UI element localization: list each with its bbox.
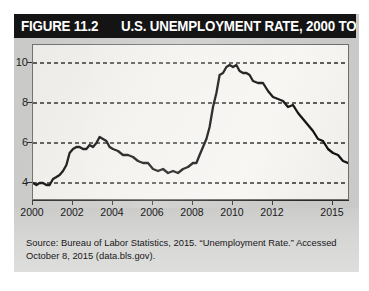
y-axis-tick-label: 4 — [2, 176, 28, 188]
figure-title-bar: FIGURE 11.2 U.S. UNEMPLOYMENT RATE, 2000… — [14, 14, 356, 38]
x-axis-tick — [232, 200, 233, 205]
unemployment-rate-line — [33, 65, 348, 185]
y-axis-tick — [27, 102, 32, 103]
chart-plot-panel — [32, 44, 349, 200]
x-axis-tick-label: 2015 — [320, 206, 343, 218]
x-axis-tick-label: 2002 — [60, 206, 83, 218]
x-axis-tick-label: 2000 — [20, 206, 43, 218]
x-axis-tick-label: 2010 — [220, 206, 243, 218]
x-axis-tick — [332, 200, 333, 205]
y-axis-tick-label: 6 — [2, 136, 28, 148]
x-axis-tick-label: 2006 — [140, 206, 163, 218]
x-axis-tick — [152, 200, 153, 205]
y-axis-tick — [27, 62, 32, 63]
x-axis-tick — [32, 200, 33, 205]
x-axis-tick — [272, 200, 273, 205]
y-axis-tick — [27, 182, 32, 183]
figure-source-note: Source: Bureau of Labor Statistics, 2015… — [26, 236, 342, 263]
figure-title: U.S. UNEMPLOYMENT RATE, 2000 TO 2015 — [121, 18, 356, 34]
y-axis-tick — [27, 142, 32, 143]
x-axis-tick-label: 2004 — [100, 206, 123, 218]
figure-number-label: FIGURE 11.2 — [21, 18, 98, 34]
unemployment-line-chart — [33, 45, 348, 199]
figure-card: FIGURE 11.2 U.S. UNEMPLOYMENT RATE, 2000… — [0, 0, 369, 291]
x-axis-tick — [112, 200, 113, 205]
x-axis-tick — [192, 200, 193, 205]
x-axis-tick — [72, 200, 73, 205]
chart-plot-inner — [33, 45, 348, 199]
y-axis-tick-label: 8 — [2, 96, 28, 108]
chart-x-axis-line — [32, 200, 349, 201]
y-axis-tick-label: 10 — [2, 56, 28, 68]
x-axis-tick-label: 2008 — [180, 206, 203, 218]
x-axis-tick-label: 2012 — [260, 206, 283, 218]
